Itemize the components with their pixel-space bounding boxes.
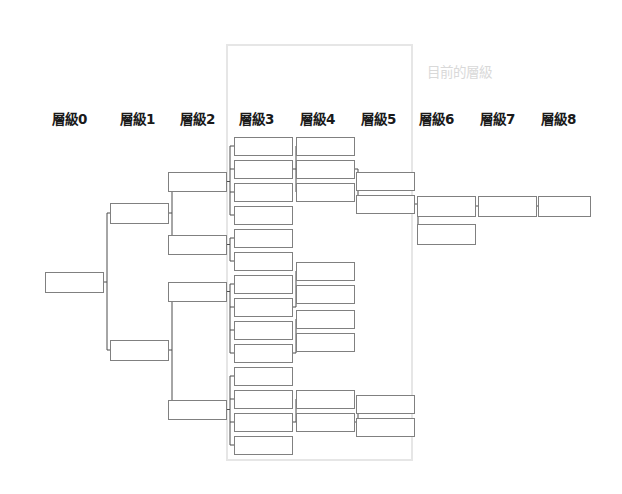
level-label-1: 層級1 bbox=[120, 113, 155, 127]
level-label-7: 層級7 bbox=[480, 113, 515, 127]
tree-node-l4-1[interactable] bbox=[297, 161, 355, 179]
tree-node-l3-10[interactable] bbox=[235, 368, 293, 386]
tree-node-l3-11[interactable] bbox=[235, 391, 293, 409]
tree-node-l4-3[interactable] bbox=[297, 263, 355, 281]
level-label-4: 層級4 bbox=[300, 113, 335, 127]
tree-node-l3-3[interactable] bbox=[235, 207, 293, 225]
level-label-5: 層級5 bbox=[361, 113, 396, 127]
tree-node-l2-1[interactable] bbox=[169, 236, 227, 255]
tree-node-l3-12[interactable] bbox=[235, 414, 293, 432]
tree-node-l5-3[interactable] bbox=[357, 419, 415, 437]
level-label-0: 層級0 bbox=[52, 113, 87, 127]
tree-node-l5-1[interactable] bbox=[357, 196, 415, 214]
tree-node-l3-8[interactable] bbox=[235, 322, 293, 340]
tree-node-l3-13[interactable] bbox=[235, 437, 293, 455]
tree-node-l4-7[interactable] bbox=[297, 391, 355, 409]
current-level-note: 目前的層級 bbox=[427, 66, 492, 80]
tree-node-l0-0[interactable] bbox=[46, 273, 104, 293]
tree-node-l3-0[interactable] bbox=[235, 138, 293, 156]
tree-node-l3-9[interactable] bbox=[235, 345, 293, 363]
tree-node-l3-6[interactable] bbox=[235, 276, 293, 294]
tree-node-l1-1[interactable] bbox=[111, 341, 169, 361]
tree-node-l4-5[interactable] bbox=[297, 311, 355, 329]
tree-node-l5-0[interactable] bbox=[357, 173, 415, 191]
level-label-2: 層級2 bbox=[180, 113, 215, 127]
level-label-6: 層級6 bbox=[419, 113, 454, 127]
level-label-3: 層級3 bbox=[239, 113, 274, 127]
tree-node-l1-0[interactable] bbox=[111, 204, 169, 224]
tree-node-l7-0[interactable] bbox=[479, 197, 537, 217]
tree-node-l3-5[interactable] bbox=[235, 253, 293, 271]
tree-node-l4-2[interactable] bbox=[297, 184, 355, 202]
tree-node-l4-6[interactable] bbox=[297, 334, 355, 352]
tree-graph bbox=[0, 0, 622, 494]
tree-node-l8-0[interactable] bbox=[539, 197, 591, 217]
tree-node-l5-2[interactable] bbox=[357, 396, 415, 414]
tree-node-l3-1[interactable] bbox=[235, 161, 293, 179]
tree-node-l3-7[interactable] bbox=[235, 299, 293, 317]
node-layer bbox=[46, 138, 591, 455]
tree-node-l2-3[interactable] bbox=[169, 401, 227, 420]
tree-node-l4-8[interactable] bbox=[297, 414, 355, 432]
tree-node-l6-0[interactable] bbox=[418, 197, 476, 217]
tree-node-l2-2[interactable] bbox=[169, 283, 227, 302]
bracket-diagram-canvas: 層級0層級1層級2層級3層級4層級5層級6層級7層級8 目前的層級 bbox=[0, 0, 622, 494]
tree-node-l2-0[interactable] bbox=[169, 173, 227, 192]
tree-node-l4-0[interactable] bbox=[297, 138, 355, 156]
tree-node-l3-4[interactable] bbox=[235, 230, 293, 248]
tree-node-l3-2[interactable] bbox=[235, 184, 293, 202]
tree-node-l4-4[interactable] bbox=[297, 286, 355, 304]
tree-node-l6-1[interactable] bbox=[418, 225, 476, 245]
level-label-8: 層級8 bbox=[541, 113, 576, 127]
